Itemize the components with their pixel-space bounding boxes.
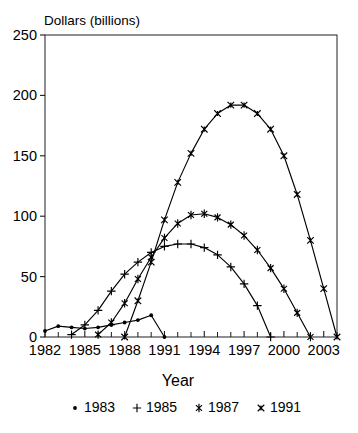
legend-marker-1985 [133,404,141,412]
chart-figure: 050100150200250 198219851988199119941997… [0,0,358,433]
legend-marker-1991 [258,405,265,412]
x-tick-label-2000: 2000 [268,342,300,358]
data-point-1983 [149,313,153,317]
plot-area-border [45,35,337,337]
x-tick-label-2003: 2003 [308,342,340,358]
legend-label-1985: 1985 [146,399,177,415]
data-point-1983 [123,321,127,325]
legend-marker-1983 [73,406,77,410]
x-tick-label-1997: 1997 [228,342,260,358]
data-point-1983 [70,325,74,329]
x-tick-label-1991: 1991 [148,342,180,358]
y-tick-label-200: 200 [13,87,37,103]
y-axis-ticks-group: 050100150200250 [13,27,45,345]
legend: 1983198519871991 [73,399,301,415]
x-axis-title-group: Year [162,372,195,389]
data-point-1983 [43,329,47,333]
legend-item-1991[interactable]: 1991 [258,399,302,415]
y-tick-label-50: 50 [21,269,37,285]
legend-label-1983: 1983 [84,399,115,415]
legend-label-1987: 1987 [208,399,239,415]
data-point-1983 [136,318,140,322]
legend-label-1991: 1991 [270,399,301,415]
legend-item-1987[interactable]: 1987 [196,399,239,415]
x-tick-label-1994: 1994 [188,342,220,358]
x-tick-label-1985: 1985 [69,342,101,358]
y-tick-label-100: 100 [13,208,37,224]
x-tick-label-1988: 1988 [109,342,141,358]
line-chart: 050100150200250 198219851988199119941997… [0,0,358,433]
legend-item-1985[interactable]: 1985 [133,399,178,415]
x-axis-title: Year [162,372,195,389]
y-tick-label-150: 150 [13,148,37,164]
data-point-1983 [56,324,60,328]
legend-marker-1987 [196,404,202,412]
data-point-1983 [96,325,100,329]
y-axis-title: Dollars (billions) [44,13,140,28]
data-point-1983 [163,335,167,339]
y-axis-title-group: Dollars (billions) [44,13,140,28]
legend-item-1983[interactable]: 1983 [73,399,115,415]
y-tick-label-250: 250 [13,27,37,43]
x-tick-label-1982: 1982 [29,342,61,358]
